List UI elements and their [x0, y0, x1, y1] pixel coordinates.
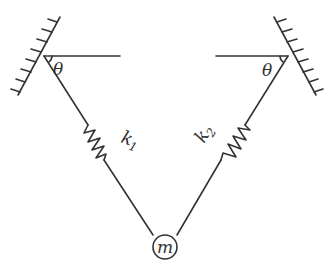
left-angle-arc: [49, 56, 52, 62]
k2-label: k 2: [190, 120, 220, 148]
right-angle-arc: [280, 56, 283, 62]
spring-mass-diagram: θ θ k 1 k 2 m: [0, 0, 329, 280]
spring-k2: [177, 56, 288, 235]
theta-right-label: θ: [262, 60, 272, 80]
k1-label: k 1: [118, 126, 143, 155]
mass-label: m: [157, 237, 173, 257]
theta-left-label: θ: [53, 59, 63, 79]
